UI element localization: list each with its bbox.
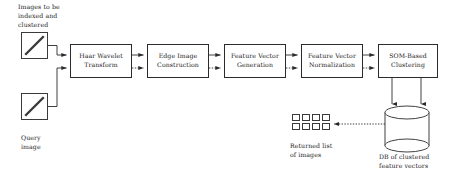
db-cylinder-shape xyxy=(385,106,429,152)
image-diagonal-icon xyxy=(22,94,47,119)
returned-thumbnail[interactable] xyxy=(302,123,310,130)
process-box-label-line: Haar Wavelet xyxy=(79,52,123,61)
caption-line: Query xyxy=(21,134,41,143)
returned-thumbnail[interactable] xyxy=(292,123,300,130)
image-diagonal-icon xyxy=(22,33,47,58)
returned-thumbnail[interactable] xyxy=(312,123,320,130)
process-box-label-line: Clustering xyxy=(391,61,425,70)
caption-line: indexed and xyxy=(18,12,60,21)
process-box-feature-vector-generation[interactable]: Feature Vector Generation xyxy=(224,44,286,78)
returned-thumbnail[interactable] xyxy=(322,123,330,130)
process-box-haar-wavelet-transform[interactable]: Haar Wavelet Transform xyxy=(70,44,132,78)
caption-line: feature vectors xyxy=(379,162,429,171)
caption-line: of images xyxy=(290,151,332,160)
process-box-label-line: Generation xyxy=(237,61,273,70)
returned-thumbnail[interactable] xyxy=(292,114,300,121)
process-box-label-line: Feature Vector xyxy=(231,52,279,61)
connector-query-to-haar xyxy=(48,68,67,107)
caption-line: Returned list xyxy=(290,142,332,151)
returned-thumbnail[interactable] xyxy=(322,114,330,121)
diagram-connectors xyxy=(0,0,452,176)
connector-indexed-to-haar xyxy=(48,46,67,56)
db-label: DB of clustered feature vectors xyxy=(379,153,429,171)
caption-line: image xyxy=(21,143,41,152)
process-box-label-line: Construction xyxy=(157,61,199,70)
process-box-edge-image-construction[interactable]: Edge Image Construction xyxy=(147,44,209,78)
process-box-label-line: Transform xyxy=(84,61,118,70)
process-box-som-based-clustering[interactable]: SOM-Based Clustering xyxy=(378,44,438,78)
returned-list-grid[interactable] xyxy=(292,114,330,130)
caption-line: clustered xyxy=(18,21,60,30)
query-image-label: Query image xyxy=(21,134,41,152)
process-box-label-line: Feature Vector xyxy=(308,52,356,61)
process-box-label-line: Edge Image xyxy=(159,52,198,61)
indexed-images-label: Images to be indexed and clustered xyxy=(18,3,60,30)
diagram-canvas: Haar Wavelet Transform Edge Image Constr… xyxy=(0,0,452,176)
caption-line: Images to be xyxy=(18,3,60,12)
indexed-images-icon[interactable] xyxy=(21,32,48,59)
returned-thumbnail[interactable] xyxy=(302,114,310,121)
caption-line: DB of clustered xyxy=(379,153,429,162)
returned-thumbnail[interactable] xyxy=(312,114,320,121)
process-box-label-line: Normalization xyxy=(309,61,355,70)
process-box-label-line: SOM-Based xyxy=(389,52,427,61)
returned-list-label: Returned list of images xyxy=(290,142,332,160)
query-image-icon[interactable] xyxy=(21,93,48,120)
process-box-feature-vector-normalization[interactable]: Feature Vector Normalization xyxy=(301,44,363,78)
